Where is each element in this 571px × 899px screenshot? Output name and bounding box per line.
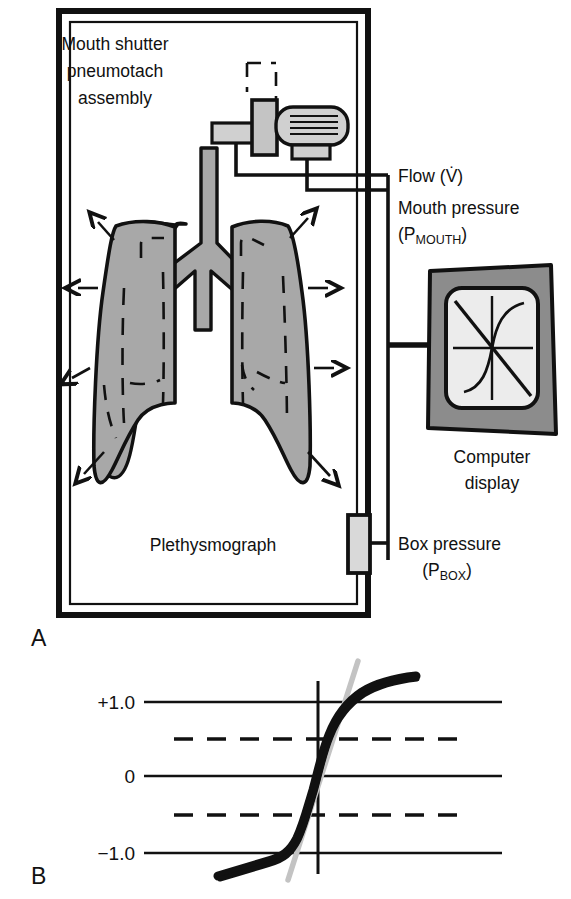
panel-a-group: Mouth shutter pneumotach assembly Flow (…: [31, 11, 556, 651]
mouthpiece-icon: [212, 123, 254, 143]
y-tick-label-plus-1: +1.0: [97, 692, 135, 713]
figure-root: Mouth shutter pneumotach assembly Flow (…: [0, 0, 571, 899]
pneumotach-icon: [276, 107, 348, 145]
box-pressure-label: Box pressure: [398, 534, 501, 554]
assembly-label-line3: assembly: [78, 88, 152, 108]
assembly-mount-icon: [292, 145, 330, 159]
box-pressure-subscript-label: (PBOX): [422, 560, 472, 583]
assembly-label-line1: Mouth shutter: [62, 34, 169, 54]
transducer-icon: [348, 515, 388, 573]
y-tick-label-zero: 0: [124, 766, 135, 787]
shutter-icon: [252, 100, 277, 155]
computer-label-line1: Computer: [454, 447, 531, 467]
panel-b-label: B: [31, 863, 46, 889]
computer-display-icon: [428, 265, 556, 434]
y-tick-label-minus-1: −1.0: [97, 843, 135, 864]
mouth-pressure-label: Mouth pressure: [398, 198, 520, 218]
panel-a-label: A: [31, 625, 47, 651]
plethysmograph-label: Plethysmograph: [150, 535, 276, 555]
computer-label-line2: display: [465, 473, 520, 493]
assembly-label-line2: pneumotach: [67, 61, 163, 81]
figure-svg: Mouth shutter pneumotach assembly Flow (…: [0, 0, 571, 899]
mouth-pressure-subscript-label: (PMOUTH): [398, 224, 467, 247]
panel-b-group: +1.0 0 −1.0 B: [31, 661, 502, 889]
flow-label: Flow (V̇): [398, 166, 463, 186]
